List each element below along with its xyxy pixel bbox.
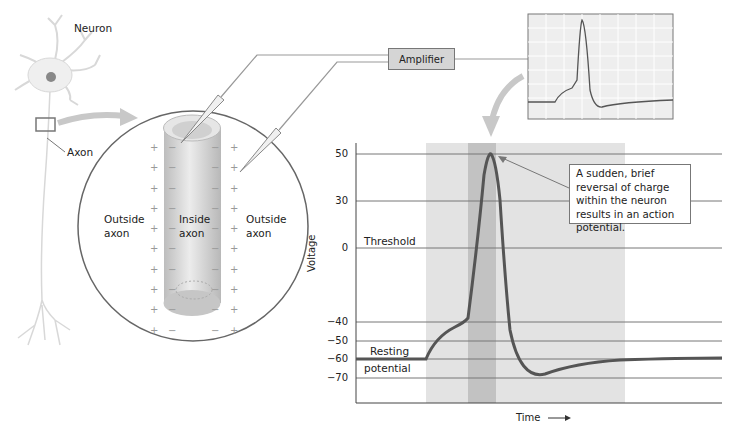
y-tick-minus40: −40 xyxy=(322,316,348,327)
zoom-arrow xyxy=(58,115,125,123)
x-axis-label: Time xyxy=(516,412,540,423)
outside-axon-left-label: Outsideaxon xyxy=(104,212,145,240)
outside-axon-right-label: Outsideaxon xyxy=(246,212,287,240)
axon-label: Axon xyxy=(67,146,93,158)
inside-axon-label: Insideaxon xyxy=(179,212,210,240)
potential-label: potential xyxy=(364,362,411,374)
y-tick-0: 0 xyxy=(322,242,348,253)
wire-inside xyxy=(221,55,388,97)
negative-charges-right: −−−−−−−−−− xyxy=(211,138,219,341)
neuron-label: Neuron xyxy=(74,22,112,34)
axon-selection-box xyxy=(36,118,55,131)
y-tick-30: 30 xyxy=(322,195,348,206)
action-potential-callout: A sudden, brief reversal of charge withi… xyxy=(569,164,691,224)
threshold-label: Threshold xyxy=(364,235,416,247)
y-tick-50: 50 xyxy=(322,148,348,159)
amplifier-label: Amplifier xyxy=(399,54,444,65)
negative-charges-left: −−−−−−−−−− xyxy=(168,138,176,341)
positive-charges-right: ++++++++++ xyxy=(230,138,238,341)
y-tick-minus50: −50 xyxy=(322,335,348,346)
y-tick-minus70: −70 xyxy=(322,372,348,383)
axon-pointer xyxy=(47,138,65,152)
amplifier-box: Amplifier xyxy=(388,48,455,70)
y-tick-minus60: −60 xyxy=(322,353,348,364)
resting-label: Resting xyxy=(370,345,409,357)
y-axis-label: Voltage xyxy=(306,234,317,272)
nucleus xyxy=(46,72,56,82)
positive-charges-left: ++++++++++ xyxy=(150,138,158,341)
wire-outside xyxy=(279,62,388,130)
